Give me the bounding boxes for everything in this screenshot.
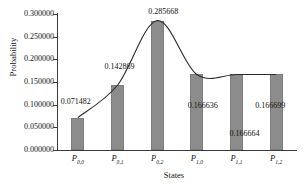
bar bbox=[111, 85, 124, 150]
y-axis-tick-label: 0.300000 bbox=[8, 10, 54, 18]
x-axis-line bbox=[57, 150, 297, 151]
y-axis-tick-mark bbox=[53, 82, 57, 83]
bar bbox=[151, 21, 164, 151]
x-tick-subscript: 1,2 bbox=[275, 159, 282, 165]
x-tick-subscript: 1,1 bbox=[236, 159, 243, 165]
bar bbox=[190, 74, 203, 150]
y-axis-tick-labels: 0.3000000.2500000.2000000.1500000.100000… bbox=[8, 0, 54, 187]
data-label: 0.285668 bbox=[148, 8, 178, 16]
y-axis-tick-label: 0.100000 bbox=[8, 101, 54, 109]
y-axis-tick-mark bbox=[53, 127, 57, 128]
x-axis-tick-label: P1,2 bbox=[270, 153, 282, 165]
plot-area: 0.0714820.1428690.2856680.1666360.166664… bbox=[58, 14, 296, 150]
x-axis-tick-label: P0,1 bbox=[111, 153, 123, 165]
data-label: 0.166636 bbox=[188, 102, 218, 110]
data-label: 0.142869 bbox=[105, 63, 135, 71]
x-axis-tick-label: P0,0 bbox=[72, 153, 84, 165]
x-axis-title: States bbox=[55, 170, 293, 180]
y-axis-tick-mark bbox=[53, 150, 57, 151]
x-tick-subscript: 0,1 bbox=[117, 159, 124, 165]
y-axis-tick-label: 0.250000 bbox=[8, 33, 54, 41]
y-axis-tick-mark bbox=[53, 105, 57, 106]
data-label: 0.166699 bbox=[255, 102, 285, 110]
x-axis-tick-label: P1,0 bbox=[191, 153, 203, 165]
bar bbox=[71, 118, 84, 150]
y-axis-tick-label: 0.200000 bbox=[8, 55, 54, 63]
y-axis-tick-label: 0.150000 bbox=[8, 78, 54, 86]
x-tick-subscript: 0,0 bbox=[77, 159, 84, 165]
probability-bar-chart: Probability 0.3000000.2500000.2000000.15… bbox=[0, 0, 308, 187]
y-axis-tick-mark bbox=[53, 37, 57, 38]
bar bbox=[230, 74, 243, 150]
x-axis-tick-labels: P0,0P0,1P0,2P1,0P1,1P1,2 bbox=[58, 153, 296, 169]
bar bbox=[270, 74, 283, 150]
y-axis-tick-mark bbox=[53, 59, 57, 60]
y-axis-tick-label: 0.050000 bbox=[8, 123, 54, 131]
x-tick-subscript: 0,2 bbox=[156, 159, 163, 165]
x-axis-tick-label: P0,2 bbox=[151, 153, 163, 165]
data-label: 0.071482 bbox=[61, 98, 91, 106]
x-axis-tick-label: P1,1 bbox=[230, 153, 242, 165]
x-tick-subscript: 1,0 bbox=[196, 159, 203, 165]
y-axis-tick-label: 0.000000 bbox=[8, 146, 54, 154]
data-label: 0.166664 bbox=[230, 130, 260, 138]
y-axis-tick-mark bbox=[53, 14, 57, 15]
trend-line bbox=[58, 14, 296, 150]
